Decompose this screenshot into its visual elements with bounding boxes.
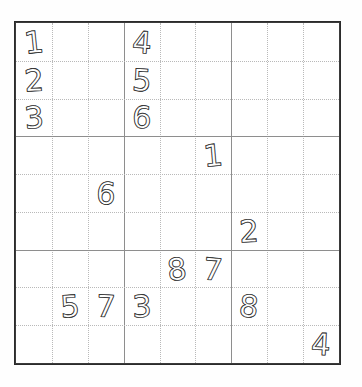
sudoku-cell-empty-r3c5[interactable] xyxy=(160,99,196,137)
sudoku-cell-filled-r8c7[interactable]: 88 xyxy=(231,287,267,325)
digit-8-r8c7: 88 xyxy=(231,287,267,325)
sudoku-cell-empty-r8c8[interactable] xyxy=(267,287,303,325)
sudoku-cell-empty-r3c6[interactable] xyxy=(195,99,231,137)
digit-4-r1c4: 44 xyxy=(124,23,160,61)
sudoku-cell-empty-r1c9[interactable] xyxy=(303,23,339,61)
sudoku-cell-empty-r5c7[interactable] xyxy=(231,174,267,212)
sudoku-cell-filled-r8c3[interactable]: 77 xyxy=(88,287,124,325)
digit-8-r7c5: 88 xyxy=(159,250,195,288)
sudoku-cell-empty-r9c2[interactable] xyxy=(52,325,88,363)
sudoku-grid-inner[interactable]: 11442255336611662288775577338844 xyxy=(16,23,339,363)
sudoku-cell-empty-r9c3[interactable] xyxy=(88,325,124,363)
sudoku-cell-empty-r5c6[interactable] xyxy=(195,174,231,212)
sudoku-cell-empty-r1c5[interactable] xyxy=(160,23,196,61)
sudoku-cell-empty-r9c1[interactable] xyxy=(16,325,52,363)
sudoku-cell-empty-r7c1[interactable] xyxy=(16,250,52,288)
sudoku-cell-empty-r5c9[interactable] xyxy=(303,174,339,212)
sudoku-cell-empty-r3c3[interactable] xyxy=(88,99,124,137)
sudoku-cell-filled-r2c1[interactable]: 22 xyxy=(16,61,52,99)
digit-inner-fill: 5 xyxy=(131,62,152,98)
digit-inner-fill: 1 xyxy=(202,137,224,174)
sudoku-cell-empty-r2c2[interactable] xyxy=(52,61,88,99)
sudoku-cell-empty-r2c7[interactable] xyxy=(231,61,267,99)
sudoku-cell-empty-r8c5[interactable] xyxy=(160,287,196,325)
sudoku-cell-empty-r7c8[interactable] xyxy=(267,250,303,288)
digit-2-r6c7: 22 xyxy=(231,212,267,250)
sudoku-cell-empty-r1c8[interactable] xyxy=(267,23,303,61)
digit-6-r3c4: 66 xyxy=(124,98,160,136)
sudoku-cell-empty-r4c4[interactable] xyxy=(124,136,160,174)
sudoku-cell-empty-r5c4[interactable] xyxy=(124,174,160,212)
sudoku-cell-empty-r2c3[interactable] xyxy=(88,61,124,99)
sudoku-cell-filled-r7c6[interactable]: 77 xyxy=(195,250,231,288)
sudoku-cell-empty-r4c9[interactable] xyxy=(303,136,339,174)
sudoku-cell-empty-r5c1[interactable] xyxy=(16,174,52,212)
sudoku-cell-empty-r8c6[interactable] xyxy=(195,287,231,325)
sudoku-cell-filled-r8c4[interactable]: 33 xyxy=(124,287,160,325)
sudoku-cell-empty-r4c3[interactable] xyxy=(88,136,124,174)
digit-inner-fill: 1 xyxy=(23,24,46,61)
sudoku-cell-empty-r6c5[interactable] xyxy=(160,212,196,250)
sudoku-cell-empty-r2c8[interactable] xyxy=(267,61,303,99)
sudoku-cell-filled-r2c4[interactable]: 55 xyxy=(124,61,160,99)
digit-7-r7c6: 77 xyxy=(195,250,231,288)
sudoku-cell-empty-r4c8[interactable] xyxy=(267,136,303,174)
sudoku-cell-empty-r4c2[interactable] xyxy=(52,136,88,174)
sudoku-cell-empty-r7c3[interactable] xyxy=(88,250,124,288)
sudoku-cell-empty-r8c9[interactable] xyxy=(303,287,339,325)
sudoku-cell-empty-r5c5[interactable] xyxy=(160,174,196,212)
sudoku-cell-empty-r6c6[interactable] xyxy=(195,212,231,250)
sudoku-cell-empty-r1c3[interactable] xyxy=(88,23,124,61)
sudoku-cell-empty-r7c9[interactable] xyxy=(303,250,339,288)
sudoku-cell-empty-r7c4[interactable] xyxy=(124,250,160,288)
sudoku-cell-empty-r6c9[interactable] xyxy=(303,212,339,250)
digit-inner-fill: 7 xyxy=(202,251,224,288)
sudoku-cell-filled-r4c6[interactable]: 11 xyxy=(195,136,231,174)
digit-7-r8c3: 77 xyxy=(88,287,124,325)
sudoku-cell-empty-r1c2[interactable] xyxy=(52,23,88,61)
sudoku-cell-filled-r3c4[interactable]: 66 xyxy=(124,99,160,137)
sudoku-cell-empty-r2c6[interactable] xyxy=(195,61,231,99)
sudoku-cell-empty-r1c7[interactable] xyxy=(231,23,267,61)
sudoku-cell-filled-r5c3[interactable]: 66 xyxy=(88,174,124,212)
sudoku-cell-empty-r8c1[interactable] xyxy=(16,287,52,325)
sudoku-cell-empty-r9c5[interactable] xyxy=(160,325,196,363)
sudoku-cell-empty-r6c1[interactable] xyxy=(16,212,52,250)
sudoku-cell-filled-r7c5[interactable]: 88 xyxy=(160,250,196,288)
sudoku-cell-filled-r1c4[interactable]: 44 xyxy=(124,23,160,61)
digit-1-r1c1: 11 xyxy=(16,23,52,61)
sudoku-cell-empty-r7c7[interactable] xyxy=(231,250,267,288)
sudoku-cell-filled-r9c9[interactable]: 44 xyxy=(303,325,339,363)
sudoku-cell-filled-r6c7[interactable]: 22 xyxy=(231,212,267,250)
sudoku-cell-empty-r9c6[interactable] xyxy=(195,325,231,363)
sudoku-cell-empty-r4c7[interactable] xyxy=(231,136,267,174)
sudoku-cell-empty-r3c8[interactable] xyxy=(267,99,303,137)
sudoku-cell-empty-r5c8[interactable] xyxy=(267,174,303,212)
sudoku-cell-empty-r6c2[interactable] xyxy=(52,212,88,250)
sudoku-cell-empty-r5c2[interactable] xyxy=(52,174,88,212)
sudoku-cell-filled-r1c1[interactable]: 11 xyxy=(16,23,52,61)
sudoku-cell-empty-r6c8[interactable] xyxy=(267,212,303,250)
digit-inner-fill: 2 xyxy=(239,213,260,249)
sudoku-cell-empty-r2c9[interactable] xyxy=(303,61,339,99)
sudoku-cell-filled-r8c2[interactable]: 55 xyxy=(52,287,88,325)
sudoku-cell-empty-r2c5[interactable] xyxy=(160,61,196,99)
sudoku-cell-empty-r6c3[interactable] xyxy=(88,212,124,250)
sudoku-cell-filled-r3c1[interactable]: 33 xyxy=(16,99,52,137)
sudoku-cell-empty-r1c6[interactable] xyxy=(195,23,231,61)
digit-inner-fill: 3 xyxy=(23,100,45,137)
digit-3-r8c4: 33 xyxy=(124,287,160,325)
sudoku-cell-empty-r3c2[interactable] xyxy=(52,99,88,137)
sudoku-cell-empty-r9c4[interactable] xyxy=(124,325,160,363)
digit-2-r2c1: 22 xyxy=(16,61,52,99)
sudoku-cell-empty-r9c7[interactable] xyxy=(231,325,267,363)
sudoku-cell-empty-r3c9[interactable] xyxy=(303,99,339,137)
sudoku-cell-empty-r7c2[interactable] xyxy=(52,250,88,288)
sudoku-cell-empty-r9c8[interactable] xyxy=(267,325,303,363)
sudoku-cell-empty-r3c7[interactable] xyxy=(231,99,267,137)
sudoku-cell-empty-r4c1[interactable] xyxy=(16,136,52,174)
digit-inner-fill: 8 xyxy=(238,288,261,325)
digit-5-r2c4: 55 xyxy=(124,61,160,99)
sudoku-cell-empty-r4c5[interactable] xyxy=(160,136,196,174)
sudoku-cell-empty-r6c4[interactable] xyxy=(124,212,160,250)
